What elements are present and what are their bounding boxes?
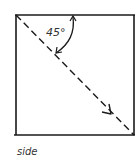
- side-caption: side: [17, 146, 38, 157]
- diagram-canvas: 45° side: [0, 0, 140, 160]
- diagonal-dashed-line: [16, 15, 134, 135]
- direction-arrowhead-icon: [102, 104, 111, 114]
- angle-label: 45°: [46, 26, 66, 39]
